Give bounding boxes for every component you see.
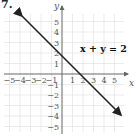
x-axis-label: x — [129, 78, 134, 88]
svg-text:1: 1 — [54, 60, 59, 69]
svg-text:−3: −3 — [47, 102, 59, 111]
svg-text:5: 5 — [54, 18, 59, 27]
svg-text:5: 5 — [112, 76, 117, 85]
equation-label: x + y = 2 — [80, 43, 127, 54]
svg-text:−4: −4 — [47, 112, 59, 121]
svg-text:3: 3 — [54, 39, 59, 48]
grid — [4, 14, 124, 132]
svg-text:−1: −1 — [47, 81, 59, 90]
y-axis-label: y — [53, 1, 60, 11]
svg-text:3: 3 — [91, 76, 96, 85]
svg-text:1: 1 — [70, 76, 75, 85]
line-x-plus-y-equals-2 — [22, 16, 121, 115]
svg-text:−5: −5 — [47, 123, 59, 132]
coordinate-plane: x y −5 −4 −3 −2 −1 1 2 3 4 5 5 4 3 2 1 −… — [0, 0, 138, 136]
svg-text:−2: −2 — [47, 91, 59, 100]
svg-text:4: 4 — [54, 28, 59, 37]
x-tick-labels: −5 −4 −3 −2 −1 1 2 3 4 5 — [4, 76, 117, 85]
svg-text:4: 4 — [101, 76, 106, 85]
